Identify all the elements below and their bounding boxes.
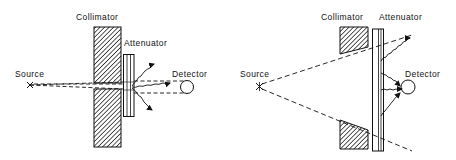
detector-circle	[181, 81, 194, 94]
diagram-canvas: Collimator Attenuator Source Detector	[0, 0, 456, 160]
detector-label: Detector	[172, 69, 207, 79]
collimator-label: Collimator	[76, 12, 118, 22]
source-label: Source	[15, 69, 44, 79]
source-point-icon	[256, 82, 263, 91]
collimator-lower-block	[94, 89, 121, 147]
detector-label: Detector	[405, 69, 440, 79]
collimator-upper-block	[94, 27, 121, 83]
collimator-upper-block	[340, 27, 368, 54]
attenuator-label: Attenuator	[379, 12, 422, 22]
collimator-label: Collimator	[321, 12, 363, 22]
source-label: Source	[240, 69, 269, 79]
broad-beam-rays	[262, 35, 412, 151]
collimator-lower-block	[340, 120, 368, 149]
detector-circle	[401, 80, 415, 94]
broad-beam-diagram: Collimator Attenuator Source Detector	[240, 12, 440, 151]
attenuator-label: Attenuator	[124, 38, 167, 48]
narrow-beam-diagram: Collimator Attenuator Source Detector	[15, 12, 207, 147]
scatter-rays	[132, 64, 170, 110]
